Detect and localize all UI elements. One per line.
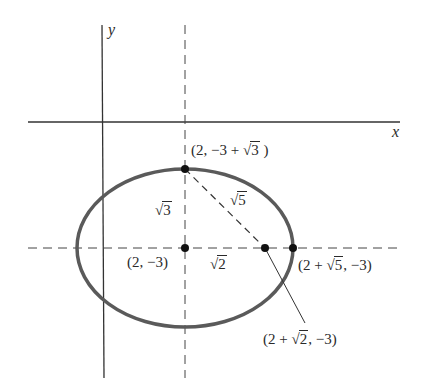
radicand: 3 [162, 201, 172, 218]
center-label: (2, −3) [127, 255, 168, 270]
focus-label: (2 + √2, −3) [263, 332, 337, 347]
sqrt-2: √2 [210, 257, 227, 272]
focus-suffix: , −3) [308, 331, 336, 347]
sqrt-5: √5 [230, 193, 247, 208]
top-vertex-label: (2, −3 + √3 ) [191, 143, 268, 158]
center-point [181, 244, 189, 252]
hypotenuse-dashed-segment [185, 169, 265, 248]
radicand: 2 [217, 255, 227, 272]
sqrt-5: √5 [326, 258, 343, 273]
focal-distance-label: √2 [210, 257, 227, 272]
right-vertex-suffix: , −3) [343, 257, 371, 273]
top-vertex-prefix: (2, −3 + [191, 142, 243, 158]
top-vertex-suffix: ) [260, 142, 269, 158]
focus-point [261, 244, 269, 252]
right-vertex-prefix: (2 + [298, 257, 326, 273]
radicand: 2 [299, 330, 309, 347]
ellipse-diagram: y x (2, −3 + √3 ) √3 √5 (2, −3) √2 (2 + … [0, 0, 423, 386]
radicand: 3 [250, 141, 260, 158]
y-axis [102, 25, 104, 378]
sqrt-3: √3 [155, 203, 172, 218]
hypotenuse-length-label: √5 [230, 193, 247, 208]
right-vertex-label: (2 + √5, −3) [298, 258, 372, 273]
diagram-canvas [0, 0, 423, 386]
minor-axis-length-label: √3 [155, 203, 172, 218]
radicand: 5 [237, 191, 247, 208]
radicand: 5 [334, 256, 344, 273]
right-vertex-point [289, 244, 297, 252]
focus-prefix: (2 + [263, 331, 291, 347]
x-axis-label: x [392, 124, 399, 140]
top-vertex-point [181, 165, 189, 173]
sqrt-2: √2 [291, 332, 308, 347]
y-axis-label: y [108, 22, 115, 38]
sqrt-3: √3 [243, 143, 260, 158]
